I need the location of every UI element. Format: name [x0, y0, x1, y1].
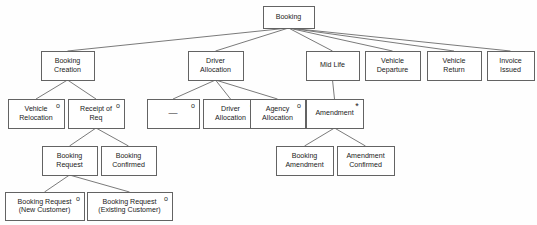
node-label-receipt-of-req-line-0: Receipt of [80, 105, 112, 113]
structure-diagram-canvas: BookingBookingCreationDriverAllocationMi… [0, 0, 537, 225]
connector-receipt-of-req-to-booking-request [70, 128, 97, 146]
node-amendment-confirmed[interactable]: AmendmentConfirmed [338, 147, 395, 176]
connector-receipt-of-req-to-booking-confirmed [96, 128, 129, 146]
node-booking-confirmed[interactable]: BookingConfirmed [102, 147, 157, 176]
node-label-booking-amendment-line-1: Amendment [285, 161, 323, 169]
node-receipt-of-req[interactable]: Receipt ofReqo [69, 100, 125, 129]
connector-booking-creation-to-receipt-of-req [68, 80, 97, 99]
node-booking-request-new[interactable]: Booking Request(New Customer)o [6, 193, 85, 221]
node-marker-receipt-of-req: o [116, 102, 120, 109]
node-marker-amendment: * [355, 101, 359, 111]
node-label-driver-allocation-group-line-1: Allocation [200, 66, 231, 74]
node-layer: BookingBookingCreationDriverAllocationMi… [6, 7, 535, 221]
connector-booking-to-vehicle-return [289, 28, 455, 51]
connector-booking-request-to-booking-request-existing [70, 175, 130, 192]
connector-driver-allocation-group-to-dash-node [173, 80, 216, 99]
connector-driver-allocation-group-to-agency-allocation [216, 80, 278, 99]
node-label-amendment-confirmed-line-0: Amendment [346, 152, 384, 160]
node-label-invoice-issued-line-1: Issued [500, 66, 521, 74]
node-label-booking-confirmed-line-0: Booking [116, 152, 142, 160]
node-label-booking-request-existing-line-0: Booking Request [102, 198, 156, 206]
node-label-booking-creation-line-1: Creation [54, 66, 81, 74]
node-vehicle-relocation[interactable]: VehicleRelocationo [9, 100, 65, 129]
node-label-vehicle-relocation-line-0: Vehicle [25, 105, 48, 113]
node-amendment[interactable]: Amendment* [307, 100, 364, 129]
connector-mid-life-to-amendment [333, 80, 335, 99]
node-label-receipt-of-req-line-1: Req [89, 114, 102, 122]
node-driver-allocation-group[interactable]: DriverAllocation [189, 52, 244, 81]
node-label-vehicle-departure-line-1: Departure [377, 66, 409, 74]
node-vehicle-departure[interactable]: VehicleDeparture [366, 52, 421, 81]
node-label-amendment-confirmed-line-1: Confirmed [349, 161, 382, 169]
node-label-booking-request-new-line-1: (New Customer) [19, 206, 71, 214]
node-label-booking-creation-line-0: Booking [55, 57, 81, 65]
node-dash-node[interactable]: —o [148, 100, 200, 129]
connector-booking-request-to-booking-request-new [45, 175, 70, 192]
node-label-driver-allocation-line-1: Allocation [215, 114, 246, 122]
connector-amendment-to-booking-amendment [305, 128, 335, 146]
node-label-invoice-issued-line-0: Invoice [499, 57, 522, 65]
node-marker-agency-allocation: o [297, 102, 301, 109]
node-booking-creation[interactable]: BookingCreation [42, 52, 95, 81]
node-marker-dash-node: o [191, 102, 195, 109]
node-label-booking-request-line-0: Booking [57, 152, 83, 160]
node-booking[interactable]: Booking [264, 7, 315, 29]
node-agency-allocation[interactable]: AgencyAllocationo [251, 100, 306, 129]
node-marker-booking-request-new: o [76, 195, 80, 202]
node-label-vehicle-relocation-line-1: Relocation [19, 114, 53, 122]
connector-driver-allocation-group-to-driver-allocation [216, 80, 231, 99]
node-label-booking-amendment-line-0: Booking [292, 152, 318, 160]
node-booking-request[interactable]: BookingRequest [43, 147, 98, 176]
node-booking-request-existing[interactable]: Booking Request(Existing Customer)o [88, 193, 173, 221]
node-label-vehicle-return-line-0: Vehicle [443, 57, 466, 65]
node-label-booking-line-0: Booking [276, 13, 302, 21]
connector-amendment-to-amendment-confirmed [335, 128, 366, 146]
node-label-amendment-line-0: Amendment [315, 109, 353, 117]
node-vehicle-return[interactable]: VehicleReturn [428, 52, 482, 81]
connector-booking-to-invoice-issued [289, 28, 511, 51]
node-label-booking-confirmed-line-1: Confirmed [112, 161, 145, 169]
connector-booking-to-vehicle-departure [289, 28, 393, 51]
node-label-agency-allocation-line-1: Allocation [262, 114, 293, 122]
node-marker-booking-request-existing: o [164, 195, 168, 202]
node-invoice-issued[interactable]: InvoiceIssued [488, 52, 535, 81]
node-label-dash-node-line-0: — [169, 108, 178, 118]
node-label-mid-life-line-0: Mid Life [320, 61, 345, 69]
node-mid-life[interactable]: Mid Life [307, 52, 360, 81]
node-label-driver-allocation-line-0: Driver [221, 105, 241, 113]
node-label-booking-request-new-line-0: Booking Request [17, 198, 71, 206]
node-label-booking-request-line-1: Request [56, 161, 82, 169]
structure-diagram-svg: BookingBookingCreationDriverAllocationMi… [0, 0, 537, 225]
connector-booking-creation-to-vehicle-relocation [36, 80, 68, 99]
node-label-agency-allocation-line-0: Agency [266, 105, 290, 113]
node-booking-amendment[interactable]: BookingAmendment [277, 147, 334, 176]
node-label-driver-allocation-group-line-0: Driver [206, 57, 226, 65]
node-label-booking-request-existing-line-1: (Existing Customer) [98, 206, 160, 214]
node-label-vehicle-departure-line-0: Vehicle [381, 57, 404, 65]
node-marker-vehicle-relocation: o [56, 102, 60, 109]
connector-booking-to-booking-creation [68, 28, 289, 51]
node-label-vehicle-return-line-1: Return [443, 66, 464, 74]
